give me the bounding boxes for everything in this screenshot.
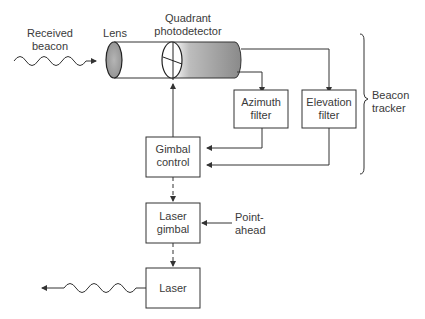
- quadrant-line1: Quadrant: [150, 12, 226, 25]
- point-ahead-line2: ahead: [235, 224, 285, 237]
- received-beacon-label: Received beacon: [22, 27, 78, 53]
- received-beacon-wave: [14, 57, 96, 66]
- beacon-tracker-brace: [360, 34, 368, 174]
- lens-icon: [106, 42, 122, 78]
- beacon-tracker-line1: Beacon: [372, 89, 422, 102]
- point-ahead-label: Point- ahead: [235, 211, 285, 237]
- azimuth-filter-label: Azimuth filter: [234, 96, 288, 122]
- lens-label: Lens: [100, 27, 130, 40]
- gimbal-control-line2: control: [146, 156, 200, 169]
- laser-gimbal-label: Laser gimbal: [146, 210, 200, 236]
- laser-gimbal-line1: Laser: [146, 210, 200, 223]
- gimbal-control-label: Gimbal control: [146, 143, 200, 169]
- laser-gimbal-line2: gimbal: [146, 223, 200, 236]
- quadrant-line2: photodetector: [150, 25, 226, 38]
- elevation-line2: filter: [302, 109, 356, 122]
- gimbal-control-line1: Gimbal: [146, 143, 200, 156]
- azimuth-line1: Azimuth: [234, 96, 288, 109]
- transmitted-beam-wave: [42, 284, 146, 293]
- quadrant-photodetector-label: Quadrant photodetector: [150, 12, 226, 38]
- received-beacon-line2: beacon: [22, 40, 78, 53]
- azimuth-line2: filter: [234, 109, 288, 122]
- beacon-tracker-label: Beacon tracker: [372, 89, 422, 115]
- laser-label: Laser: [146, 282, 200, 295]
- elevation-line1: Elevation: [302, 96, 356, 109]
- elevation-filter-label: Elevation filter: [302, 96, 356, 122]
- beacon-tracker-line2: tracker: [372, 102, 422, 115]
- point-ahead-line1: Point-: [235, 211, 285, 224]
- received-beacon-line1: Received: [22, 27, 78, 40]
